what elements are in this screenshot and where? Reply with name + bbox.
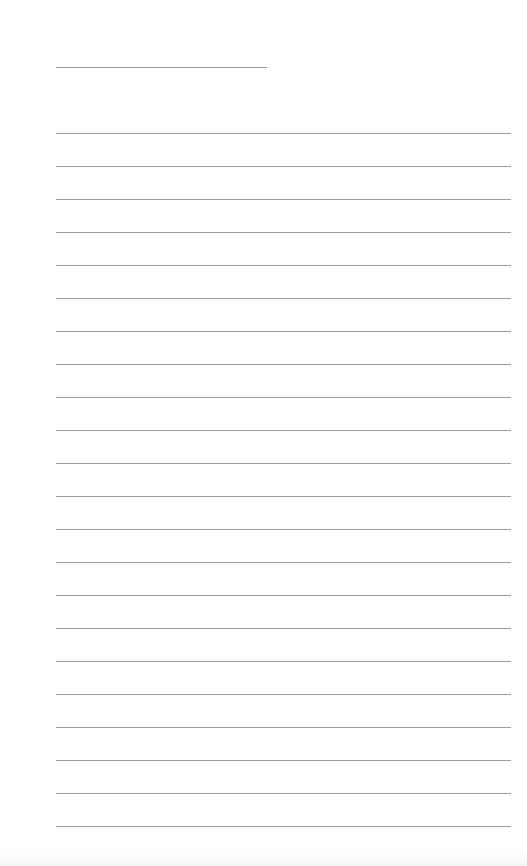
bottom-edge-shadow bbox=[0, 852, 527, 866]
lined-paper-page bbox=[0, 0, 527, 866]
ruled-line bbox=[56, 760, 511, 761]
ruled-line bbox=[56, 133, 511, 134]
ruled-line bbox=[56, 727, 511, 728]
ruled-line bbox=[56, 463, 511, 464]
ruled-line bbox=[56, 496, 511, 497]
ruled-line bbox=[56, 232, 511, 233]
ruled-line bbox=[56, 694, 511, 695]
ruled-line bbox=[56, 529, 511, 530]
ruled-line bbox=[56, 331, 511, 332]
ruled-line bbox=[56, 298, 511, 299]
ruled-line bbox=[56, 364, 511, 365]
ruled-line bbox=[56, 397, 511, 398]
ruled-line bbox=[56, 793, 511, 794]
ruled-line bbox=[56, 826, 511, 827]
ruled-line bbox=[56, 166, 511, 167]
ruled-line bbox=[56, 430, 511, 431]
ruled-line bbox=[56, 628, 511, 629]
ruled-line bbox=[56, 562, 511, 563]
ruled-line bbox=[56, 265, 511, 266]
title-write-line bbox=[56, 67, 267, 68]
ruled-line bbox=[56, 199, 511, 200]
ruled-line bbox=[56, 661, 511, 662]
ruled-line bbox=[56, 595, 511, 596]
